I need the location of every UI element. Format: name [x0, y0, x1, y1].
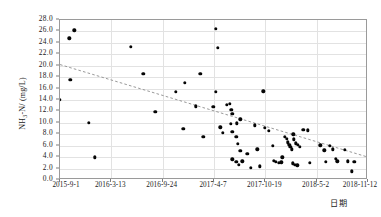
y-axis-tick-label: 22.0: [39, 50, 53, 57]
x-axis-tick-mark: [264, 179, 265, 182]
data-point: [68, 37, 71, 40]
y-axis-tick-label: 24.0: [39, 38, 53, 45]
data-point: [258, 165, 261, 168]
data-point: [93, 155, 96, 158]
data-point: [229, 122, 232, 125]
gridline-horizontal: [60, 77, 366, 78]
data-point: [343, 148, 346, 151]
data-point: [290, 147, 293, 150]
data-point: [87, 121, 90, 124]
gridline-horizontal: [60, 100, 366, 101]
data-point: [324, 160, 327, 163]
data-point: [267, 129, 270, 132]
data-point: [335, 159, 338, 162]
data-point: [214, 90, 217, 93]
y-axis-tick-label: 4.0: [43, 152, 53, 159]
data-point: [281, 155, 284, 158]
gridline-vertical: [163, 20, 164, 178]
data-point: [279, 161, 282, 164]
y-axis-tick-label: 2.0: [43, 164, 53, 171]
y-axis-title-head: NH: [18, 118, 27, 130]
y-axis-tick-label: 28.0: [39, 15, 53, 22]
data-point: [154, 110, 157, 113]
data-point: [323, 149, 326, 152]
gridline-vertical: [111, 20, 112, 178]
data-point: [241, 159, 244, 162]
data-point: [350, 170, 353, 173]
data-point: [346, 159, 349, 162]
y-axis-tick-label: 10.0: [39, 118, 53, 125]
data-point: [235, 122, 238, 125]
x-axis-tick-label: 2016-3-13: [95, 181, 126, 189]
gridline-horizontal: [60, 123, 366, 124]
gridline-horizontal: [60, 169, 366, 170]
x-axis-title: 日期: [330, 196, 347, 208]
y-axis-tick-label: 6.0: [43, 141, 53, 148]
x-axis-tick-mark: [59, 179, 60, 182]
x-axis-tick-mark: [162, 179, 163, 182]
gridline-vertical: [265, 20, 266, 178]
data-point: [238, 118, 241, 121]
gridline-horizontal: [60, 89, 366, 90]
data-point: [292, 138, 295, 141]
x-axis-tick-label: 2018-5-2: [302, 181, 329, 189]
data-point: [306, 129, 309, 132]
data-point: [237, 163, 240, 166]
x-axis-tick-mark: [110, 179, 111, 182]
data-point: [331, 147, 334, 150]
y-axis-tick-label: 12.0: [39, 107, 53, 114]
data-point: [253, 123, 256, 126]
data-point: [194, 105, 197, 108]
x-axis-tick-label: 2017-10-19: [247, 181, 282, 189]
data-point: [231, 130, 234, 133]
data-point: [255, 147, 258, 150]
gridline-vertical: [317, 20, 318, 178]
data-point: [198, 72, 201, 75]
x-axis-tick-label: 2018-11-12: [343, 181, 377, 189]
x-axis-tick-label: 2015-9-1: [52, 181, 79, 189]
data-point: [68, 78, 71, 81]
data-point: [181, 127, 184, 130]
data-point: [234, 135, 237, 138]
data-point: [295, 163, 298, 166]
chart-figure: 0.02.04.06.08.010.012.014.016.018.020.02…: [0, 0, 381, 217]
y-axis-tick-label: 8.0: [43, 130, 53, 137]
gridline-horizontal: [60, 111, 366, 112]
gridline-horizontal: [60, 157, 366, 158]
data-point: [308, 161, 311, 164]
y-axis-ticks: 0.02.04.06.08.010.012.014.016.018.020.02…: [0, 19, 57, 179]
y-axis-tick-label: 14.0: [39, 95, 53, 102]
data-point: [141, 72, 144, 75]
y-axis-tick-label: 18.0: [39, 72, 53, 79]
data-point: [291, 133, 294, 136]
plot-area: [59, 19, 367, 179]
data-point: [129, 45, 132, 48]
data-point: [231, 112, 234, 115]
y-axis-title: NH3-N/ (mg/L): [18, 34, 27, 174]
y-axis-tick-label: 20.0: [39, 61, 53, 68]
gridline-horizontal: [60, 134, 366, 135]
data-point: [202, 135, 205, 138]
x-axis-tick-mark: [213, 179, 214, 182]
y-axis-title-tail: -N/ (mg/L): [18, 77, 27, 114]
x-axis-tick-label: 2017-4-7: [199, 181, 226, 189]
gridline-horizontal: [60, 31, 366, 32]
data-point: [246, 152, 249, 155]
data-point: [352, 160, 355, 163]
y-axis-tick-label: 16.0: [39, 84, 53, 91]
data-point: [298, 145, 301, 148]
data-point: [59, 98, 62, 101]
data-point: [238, 149, 241, 152]
data-point: [214, 27, 217, 30]
x-axis-tick-mark: [316, 179, 317, 182]
data-point: [302, 128, 305, 131]
x-axis-tick-label: 2016-9-24: [146, 181, 177, 189]
y-axis-title-sub: 3: [21, 115, 27, 118]
data-point: [228, 102, 231, 105]
gridline-horizontal: [60, 54, 366, 55]
data-point: [218, 126, 221, 129]
gridline-horizontal: [60, 66, 366, 67]
x-axis-tick-mark: [367, 179, 368, 182]
gridline-vertical: [214, 20, 215, 178]
data-point: [183, 81, 186, 84]
